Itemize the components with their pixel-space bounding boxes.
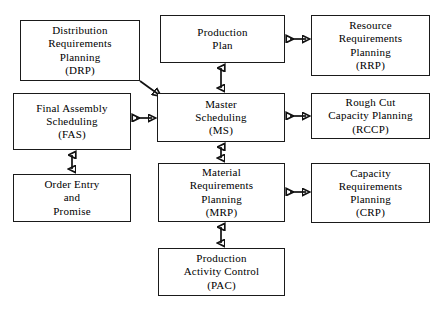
node-label-line: (CRP) (356, 206, 385, 219)
node-label-line: Distribution (52, 24, 108, 37)
node-label-line: Requirements (339, 32, 403, 45)
node-resource-requirements-planning[interactable]: Resource Requirements Planning (RRP) (311, 15, 430, 76)
node-label-line: Final Assembly (36, 102, 108, 115)
node-label-line: and (64, 191, 80, 204)
node-label-line: Requirements (339, 180, 403, 193)
connector-drp-to-master-scheduling (140, 81, 158, 94)
node-label-line: Planning (60, 51, 101, 64)
node-rough-cut-capacity-planning[interactable]: Rough Cut Capacity Planning (RCCP) (311, 93, 430, 139)
node-final-assembly-scheduling[interactable]: Final Assembly Scheduling (FAS) (13, 93, 131, 150)
node-label-line: (PAC) (207, 279, 236, 292)
node-label-line: Planning (201, 193, 242, 206)
node-label-line: (RRP) (356, 59, 385, 72)
node-label-line: Activity Control (184, 265, 260, 278)
node-label-line: Planning (350, 46, 391, 59)
node-label-line: Master (205, 98, 237, 111)
node-label-line: (FAS) (58, 128, 86, 141)
node-label-line: Material (202, 166, 241, 179)
node-production-activity-control[interactable]: Production Activity Control (PAC) (158, 248, 285, 296)
node-production-plan[interactable]: Production Plan (160, 15, 285, 63)
node-label-line: (MS) (209, 124, 233, 137)
node-label-line: Resource (349, 19, 392, 32)
node-label-line: (RCCP) (352, 123, 389, 136)
node-material-requirements-planning[interactable]: Material Requirements Planning (MRP) (158, 163, 285, 222)
node-label-line: Requirements (48, 37, 112, 50)
node-label-line: Promise (53, 205, 90, 218)
mpc-diagram-canvas: Distribution Requirements Planning (DRP)… (0, 0, 447, 313)
node-label-line: Scheduling (46, 115, 98, 128)
node-label-line: Planning (350, 193, 391, 206)
node-label-line: Capacity (350, 167, 391, 180)
node-order-entry-and-promise[interactable]: Order Entry and Promise (13, 174, 131, 222)
node-distribution-requirements-planning[interactable]: Distribution Requirements Planning (DRP) (20, 20, 140, 81)
node-label-line: Plan (212, 39, 232, 52)
node-label-line: (MRP) (206, 206, 238, 219)
node-label-line: Production (197, 26, 247, 39)
node-label-line: (DRP) (65, 64, 95, 77)
node-label-line: Rough Cut (346, 96, 396, 109)
node-label-line: Capacity Planning (328, 109, 412, 122)
node-master-scheduling[interactable]: Master Scheduling (MS) (157, 93, 285, 142)
node-label-line: Scheduling (195, 111, 247, 124)
node-capacity-requirements-planning[interactable]: Capacity Requirements Planning (CRP) (311, 163, 430, 223)
node-label-line: Requirements (190, 179, 254, 192)
node-label-line: Production (196, 252, 246, 265)
node-label-line: Order Entry (44, 178, 99, 191)
